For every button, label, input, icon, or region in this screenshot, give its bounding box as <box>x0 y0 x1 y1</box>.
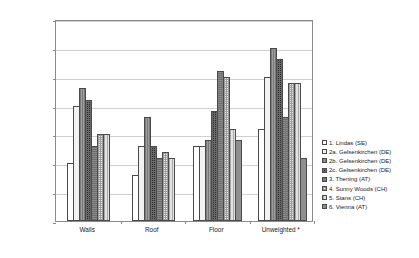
legend-swatch-icon <box>322 140 327 145</box>
bar-group <box>250 21 315 221</box>
bar-group <box>185 21 250 221</box>
x-axis-label: Floor <box>184 226 249 233</box>
chart-legend: 1. Lindas (SE)2a. Gelsenkirchen (DE)2b. … <box>322 138 418 212</box>
legend-item-2[interactable]: 2a. Gelsenkirchen (DE) <box>322 147 418 156</box>
y-tick-mark <box>53 223 56 224</box>
x-axis-label: Walls <box>55 226 120 233</box>
legend-label: 4. Sunny Woods (CH) <box>329 186 387 192</box>
legend-label: 2c. Gelsenkirchen (DE) <box>329 167 391 173</box>
bar <box>103 134 110 221</box>
x-axis-label: Roof <box>120 226 185 233</box>
bar-group <box>56 21 121 221</box>
legend-item-6[interactable]: 4. Sunny Woods (CH) <box>322 184 418 193</box>
legend-item-4[interactable]: 2c. Gelsenkirchen (DE) <box>322 166 418 175</box>
legend-item-8[interactable]: 6. Vienna (AT) <box>322 202 418 211</box>
plot-area: 0.350.300.250.200.150.100.050.00 <box>55 20 313 222</box>
legend-item-1[interactable]: 1. Lindas (SE) <box>322 138 418 147</box>
x-tick-mark <box>314 221 315 224</box>
legend-swatch-icon <box>322 158 327 163</box>
x-tick-mark <box>185 221 186 224</box>
x-axis-label: Unweighted * <box>249 226 314 233</box>
bars-layer <box>56 21 312 221</box>
x-tick-mark <box>250 221 251 224</box>
chart-container: U-values (W/m²K) 0.350.300.250.200.150.1… <box>0 0 419 258</box>
legend-swatch-icon <box>322 149 327 154</box>
bar-group <box>121 21 186 221</box>
bar <box>300 158 307 221</box>
legend-item-3[interactable]: 2b. Gelsenkirchen (DE) <box>322 156 418 165</box>
legend-swatch-icon <box>322 195 327 200</box>
legend-label: 5. Stans (CH) <box>329 195 365 201</box>
legend-item-5[interactable]: 3. Thening (AT) <box>322 175 418 184</box>
legend-label: 3. Thening (AT) <box>329 176 370 182</box>
legend-swatch-icon <box>322 204 327 209</box>
legend-label: 1. Lindas (SE) <box>329 140 367 146</box>
legend-label: 2b. Gelsenkirchen (DE) <box>329 158 391 164</box>
bar <box>168 158 175 221</box>
legend-swatch-icon <box>322 168 327 173</box>
legend-item-7[interactable]: 5. Stans (CH) <box>322 193 418 202</box>
legend-swatch-icon <box>322 177 327 182</box>
bar <box>235 140 242 221</box>
legend-label: 6. Vienna (AT) <box>329 204 367 210</box>
x-tick-mark <box>121 221 122 224</box>
legend-label: 2a. Gelsenkirchen (DE) <box>329 149 391 155</box>
legend-swatch-icon <box>322 186 327 191</box>
